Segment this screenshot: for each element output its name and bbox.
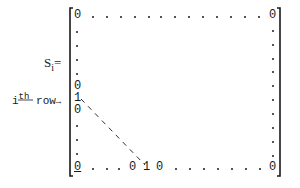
row-label: ith row→ [12,91,61,109]
row-text: row [36,95,56,107]
dot [92,16,94,18]
dot [258,16,260,18]
dot [272,127,274,129]
matrix-name: Si= [44,56,61,74]
dot [134,16,136,18]
entry-top-right: 0 [269,9,276,21]
dot [76,139,78,141]
dot [216,16,218,18]
dot [272,85,274,87]
arrow-icon: → [56,97,61,107]
dot [272,113,274,115]
dot [106,16,108,18]
diagonal-dashed-line [81,99,145,165]
dot [217,168,219,170]
row-index: i [12,95,19,107]
dot [203,168,205,170]
row-superscript: th [19,92,30,102]
dot [76,31,78,33]
matrix-diagram: Si= ith row→ 0 0 0 1 0 0 0 1 0 [0,0,300,188]
dot [272,99,274,101]
dot [272,155,274,157]
dot [175,168,177,170]
dot [230,16,232,18]
dot [245,168,247,170]
entry-bottom-before-one: 0 [129,161,136,173]
dot [202,16,204,18]
entry-bottom-after-one: 0 [156,161,163,173]
entry-bottom-one: 1 [143,161,150,173]
entry-below-i: 0 [74,104,81,116]
dot [148,16,150,18]
dot [272,58,274,60]
dot [231,168,233,170]
dot [76,59,78,61]
dot [76,73,78,75]
dot [76,45,78,47]
dot [120,16,122,18]
dot [160,16,162,18]
dot [189,168,191,170]
dot [118,168,120,170]
dot [188,16,190,18]
dot [76,125,78,127]
dot [174,16,176,18]
dot [106,168,108,170]
dot [272,30,274,32]
entry-bottom-left: 0 [74,161,81,173]
dot [272,141,274,143]
entry-bottom-right: 0 [269,161,276,173]
dot [272,44,274,46]
dot [76,153,78,155]
dot [272,71,274,73]
entry-top-left: 0 [74,9,81,21]
dot [244,16,246,18]
dot [259,168,261,170]
equals-sign: = [54,55,61,70]
dot [92,168,94,170]
